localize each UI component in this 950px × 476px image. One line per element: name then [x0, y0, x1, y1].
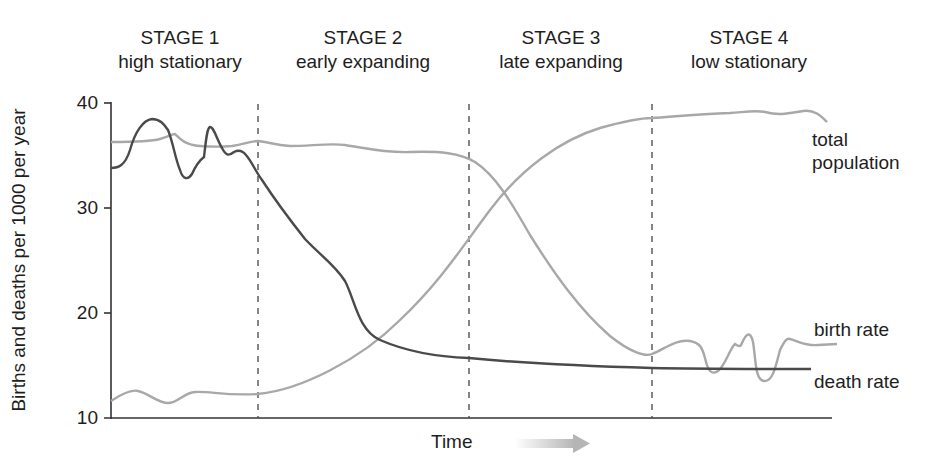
birth-rate-label: birth rate [814, 318, 889, 341]
axes [104, 102, 832, 419]
total-population-label: total population [812, 128, 900, 174]
x-axis-label: Time [431, 431, 473, 453]
chart-canvas [0, 0, 950, 476]
birth-rate-line [111, 134, 837, 381]
total-population-label-line2: population [812, 151, 900, 174]
time-arrow-icon [515, 434, 590, 453]
total-population-label-line1: total [812, 128, 900, 151]
death-rate-label: death rate [814, 370, 900, 393]
stage-boundaries [258, 104, 652, 418]
